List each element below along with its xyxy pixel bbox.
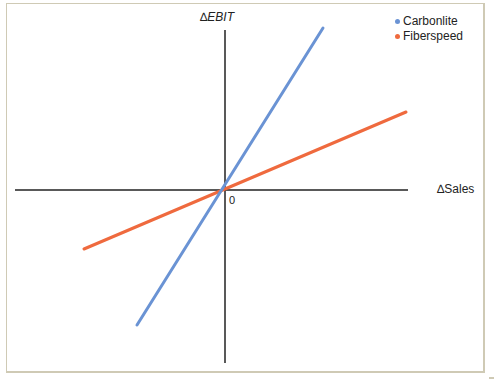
legend-marker-icon <box>395 19 400 24</box>
y-axis-label: ∆EBIT <box>200 10 234 24</box>
corner-mark <box>489 377 494 379</box>
legend-item-fiberspeed: Fiberspeed <box>395 29 463 44</box>
legend-marker-icon <box>395 34 400 39</box>
chart-plot <box>0 0 496 381</box>
origin-label: 0 <box>229 194 235 206</box>
legend-label: Fiberspeed <box>403 29 463 44</box>
series-line-fiberspeed <box>84 112 406 249</box>
legend-label: Carbonlite <box>403 14 458 29</box>
legend: Carbonlite Fiberspeed <box>395 14 463 44</box>
x-axis-label-text: Sales <box>444 182 474 196</box>
x-axis-label: ∆Sales <box>437 182 474 196</box>
y-axis-label-text: EBIT <box>207 10 234 24</box>
series-line-carbonlite <box>137 28 323 325</box>
legend-item-carbonlite: Carbonlite <box>395 14 463 29</box>
